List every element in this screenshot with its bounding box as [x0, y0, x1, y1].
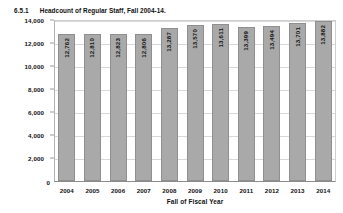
x-axis: 2004200520062007200820092010201120122013… [54, 182, 336, 194]
bar[interactable]: 13,570 [187, 25, 204, 181]
bar-value-label: 13,701 [295, 27, 301, 47]
bar[interactable]: 12,823 [110, 34, 127, 181]
figure-number: 6.5.1 [14, 7, 29, 14]
bar[interactable]: 12,806 [135, 34, 152, 181]
figure-container: 6.5.1 Headcount of Regular Staff, Fall 2… [0, 0, 343, 213]
y-axis-tick-label: 2,000 [28, 155, 44, 162]
bar[interactable]: 13,882 [315, 21, 332, 181]
x-axis-tick-label: 2012 [259, 182, 285, 194]
y-axis-tick-label: 10,000 [24, 63, 44, 70]
bar[interactable]: 13,287 [161, 28, 178, 181]
bar-slot: 12,823 [105, 20, 131, 181]
bar[interactable]: 13,399 [238, 27, 255, 181]
x-axis-tick-label: 2007 [131, 182, 157, 194]
y-axis-zero-label: 0 [0, 179, 50, 186]
bar-value-label: 13,611 [218, 28, 224, 48]
bar-slot: 13,287 [157, 20, 183, 181]
figure-title-text: Headcount of Regular Staff, Fall 2004-14… [40, 7, 166, 14]
bar[interactable]: 12,762 [58, 34, 75, 181]
bar[interactable]: 12,810 [84, 34, 101, 181]
y-axis-tick-label: 4,000 [28, 132, 44, 139]
bar[interactable]: 13,494 [263, 26, 280, 181]
y-axis-tick-label: 6,000 [28, 109, 44, 116]
x-axis-tick-label: 2014 [310, 182, 336, 194]
bar-slot: 13,701 [285, 20, 311, 181]
x-axis-tick-label: 2010 [208, 182, 234, 194]
bar[interactable]: 13,611 [212, 24, 229, 181]
x-axis-tick-label: 2013 [285, 182, 311, 194]
bar[interactable]: 13,701 [289, 23, 306, 181]
bar-slot: 13,399 [233, 20, 259, 181]
bar-series: 12,76212,81012,82312,80613,28713,57013,6… [54, 20, 336, 181]
bar-value-label: 13,287 [166, 32, 172, 52]
bar-value-label: 12,806 [141, 38, 147, 58]
bar-value-label: 13,494 [269, 30, 275, 50]
y-axis-tick-label: 12,000 [24, 40, 44, 47]
bar-slot: 12,762 [54, 20, 80, 181]
x-axis-tick-label: 2006 [105, 182, 131, 194]
bar-slot: 13,882 [310, 20, 336, 181]
x-axis-tick-label: 2011 [233, 182, 259, 194]
bar-slot: 13,570 [182, 20, 208, 181]
x-axis-tick-label: 2008 [157, 182, 183, 194]
y-axis-tick-label: 14,000 [24, 17, 44, 24]
bar-value-label: 12,823 [115, 38, 121, 58]
x-axis-title: Fall of Fiscal Year [54, 198, 336, 205]
x-axis-tick-label: 2004 [54, 182, 80, 194]
bar-value-label: 13,399 [243, 31, 249, 51]
bar-value-label: 13,570 [192, 29, 198, 49]
bar-value-label: 12,810 [89, 38, 95, 58]
x-axis-tick-label: 2005 [80, 182, 106, 194]
bar-slot: 13,611 [208, 20, 234, 181]
bar-value-label: 12,762 [64, 38, 70, 58]
bar-slot: 13,494 [259, 20, 285, 181]
bar-slot: 12,806 [131, 20, 157, 181]
y-axis: 2,0004,0006,0008,00010,00012,00014,000 [0, 20, 50, 182]
bar-slot: 12,810 [80, 20, 106, 181]
figure-title: 6.5.1 Headcount of Regular Staff, Fall 2… [14, 7, 166, 14]
x-axis-tick-label: 2009 [182, 182, 208, 194]
bar-value-label: 13,882 [320, 25, 326, 45]
y-axis-tick-label: 8,000 [28, 86, 44, 93]
